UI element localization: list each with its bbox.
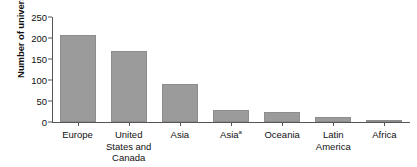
x-axis-label-line: United: [115, 129, 142, 140]
x-tick-mark: [231, 122, 232, 126]
y-tick-label: 50: [17, 96, 47, 107]
plot-area: 050100150200250: [52, 17, 410, 122]
x-axis-label-line: States and: [106, 141, 151, 152]
y-tick-label: 150: [17, 54, 47, 65]
bar-slot: [205, 17, 256, 122]
footnote-marker: a: [239, 129, 242, 135]
bar[interactable]: [264, 112, 300, 122]
x-axis-label-line: Latin: [323, 129, 344, 140]
bar-slot: [359, 17, 410, 122]
x-tick-mark: [282, 122, 283, 126]
x-axis-label: Africa: [354, 129, 414, 141]
x-axis-label-line: Africa: [372, 129, 396, 140]
bar[interactable]: [60, 35, 96, 122]
x-axis-label-line: Oceania: [264, 129, 299, 140]
x-axis-label-line: America: [316, 141, 351, 152]
bar-slot: [52, 17, 103, 122]
x-axis-label-line: Europe: [62, 129, 93, 140]
x-tick-mark: [384, 122, 385, 126]
x-tick-mark: [78, 122, 79, 126]
bar-slot: [308, 17, 359, 122]
bar[interactable]: [111, 51, 147, 122]
x-tick-mark: [333, 122, 334, 126]
x-axis-label-line: Asia: [220, 129, 238, 140]
bar[interactable]: [162, 84, 198, 122]
y-tick-label: 100: [17, 75, 47, 86]
y-tick-label: 250: [17, 12, 47, 23]
x-tick-mark: [180, 122, 181, 126]
x-axis-label-line: Asia: [171, 129, 189, 140]
y-tick-label: 0: [17, 117, 47, 128]
bar[interactable]: [213, 110, 249, 122]
bar-slot: [154, 17, 205, 122]
x-tick-mark: [129, 122, 130, 126]
bar-slot: [103, 17, 154, 122]
bar-chart: Number of universities 050100150200250 E…: [0, 0, 417, 167]
bar-slot: [257, 17, 308, 122]
x-axis-label-line: Canada: [112, 152, 145, 163]
y-tick-label: 200: [17, 33, 47, 44]
